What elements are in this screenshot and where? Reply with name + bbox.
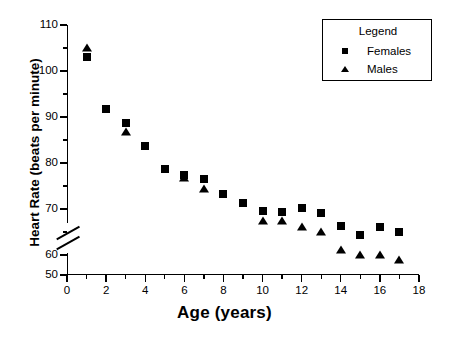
data-point-males [277,217,287,225]
y-minor-tick [63,93,67,94]
y-minor-tick [63,231,67,232]
x-minor-tick [242,275,243,279]
y-tick-label: 80 [45,157,58,169]
data-point-males [375,251,385,259]
x-tick [379,275,380,282]
data-point-males [199,184,209,192]
x-tick [145,275,146,282]
x-tick-label: 0 [64,284,70,296]
y-tick [60,70,67,71]
data-point-females [337,222,345,230]
legend-label-females: Females [367,43,411,59]
x-tick [223,275,224,282]
x-tick-label: 12 [295,284,308,296]
x-tick [66,275,67,282]
y-tick-label: 110 [40,19,58,31]
data-point-females [102,105,110,113]
legend-label-males: Males [367,61,398,77]
y-tick [60,208,67,209]
y-tick-label: 70 [45,203,58,215]
y-axis-label: Heart Rate (beats per minute) [27,38,42,268]
data-point-males [179,173,189,181]
legend-item-males: Males [323,61,433,77]
data-point-females [278,208,286,216]
x-minor-tick [86,275,87,279]
x-tick-label: 16 [373,284,386,296]
x-minor-tick [164,275,165,279]
x-tick-label: 4 [142,284,148,296]
x-tick-label: 18 [413,284,426,296]
legend-item-females: Females [323,43,433,59]
data-point-males [297,223,307,231]
data-point-females [161,165,169,173]
data-point-females [317,209,325,217]
data-point-females [200,175,208,183]
x-minor-tick [360,275,361,279]
x-tick-label: 8 [220,284,226,296]
x-tick-label: 6 [181,284,187,296]
square-marker-icon [342,48,348,54]
data-point-females [395,228,403,236]
data-point-females [356,231,364,239]
legend-title: Legend [323,25,433,37]
data-point-males [336,246,346,254]
y-tick-label: 60 [45,249,58,261]
y-axis-line [67,25,68,275]
x-tick [105,275,106,282]
x-minor-tick [125,275,126,279]
y-minor-tick [63,185,67,186]
data-point-females [376,223,384,231]
x-tick [301,275,302,282]
x-tick [262,275,263,282]
y-minor-tick [63,47,67,48]
x-tick [418,275,419,282]
data-point-males [82,44,92,52]
data-point-males [355,251,365,259]
x-minor-tick [203,275,204,279]
y-tick-label: 50 [45,269,58,281]
x-tick [340,275,341,282]
x-tick-label: 2 [103,284,109,296]
data-point-females [219,190,227,198]
x-minor-tick [281,275,282,279]
data-point-females [122,119,130,127]
data-point-females [83,53,91,61]
triangle-marker-icon [341,66,349,72]
data-point-females [259,207,267,215]
x-minor-tick [321,275,322,279]
data-point-males [258,217,268,225]
legend-box: Legend Females Males [322,19,432,81]
x-tick [184,275,185,282]
x-minor-tick [399,275,400,279]
x-tick-label: 14 [334,284,347,296]
y-tick-label: 100 [39,65,58,77]
data-point-males [394,256,404,264]
y-tick [60,116,67,117]
data-point-females [141,142,149,150]
y-tick [60,162,67,163]
data-point-males [121,127,131,135]
x-tick-label: 10 [256,284,269,296]
data-point-females [298,204,306,212]
y-tick-label: 90 [45,111,58,123]
y-tick [60,24,67,25]
x-axis-label: Age (years) [0,303,449,323]
y-minor-tick [63,139,67,140]
y-tick [60,254,67,255]
data-point-females [239,199,247,207]
chart-figure: 5060708090100110 024681012141618 Heart R… [0,0,449,344]
data-point-males [316,228,326,236]
